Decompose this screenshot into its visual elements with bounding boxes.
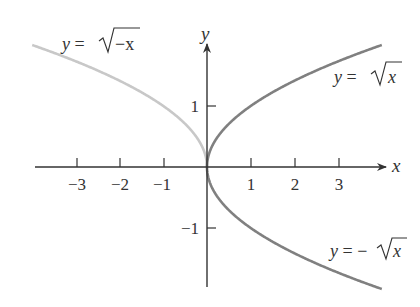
x-tick-label: −3 — [68, 175, 86, 194]
y-axis-label: y — [199, 23, 210, 44]
svg-text:x: x — [392, 241, 401, 261]
x-axis-label: x — [391, 155, 401, 176]
curve-sqrt-x — [207, 45, 382, 167]
svg-text:x: x — [387, 67, 396, 87]
x-tick-label: −2 — [111, 175, 129, 194]
curve-sqrt-neg-x — [32, 45, 207, 167]
y-tick-label: 1 — [191, 97, 200, 116]
y-tick-label: −1 — [181, 219, 199, 238]
x-tick-label: 2 — [291, 175, 300, 194]
svg-text:y =: y = — [60, 34, 85, 54]
label-sqrt-x: y = x — [332, 62, 402, 87]
label-sqrt-neg-x: y = −x — [60, 28, 140, 54]
chart: −3 −2 −1 1 2 3 1 −1 x y y = −x y = x y =… — [0, 0, 420, 307]
x-tick-label: −1 — [153, 175, 171, 194]
x-tick-label: 3 — [335, 175, 344, 194]
svg-text:−x: −x — [115, 34, 134, 54]
svg-text:y = −: y = − — [328, 241, 367, 261]
svg-text:y =: y = — [332, 67, 357, 87]
label-neg-sqrt-x: y = − x — [328, 238, 407, 261]
x-tick-label: 1 — [247, 175, 256, 194]
